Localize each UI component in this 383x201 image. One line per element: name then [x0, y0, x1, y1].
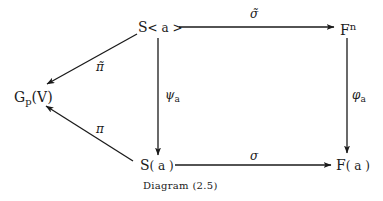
label-sigma-tilde: σ̃ [250, 7, 258, 21]
node-f-n-sup: n [350, 21, 356, 32]
label-pi-tilde: π̃ [96, 60, 104, 74]
arrow-pi-tilde [47, 34, 137, 84]
node-f-paren: F( a ) [336, 157, 370, 174]
node-f-paren-base: F [336, 157, 346, 173]
node-s-paren-base: S [140, 157, 150, 173]
label-psi-a-symbol: ψ [165, 88, 174, 102]
node-s-angle: S< a > [138, 19, 183, 36]
node-g-p-v-arg: (V) [32, 89, 53, 105]
node-f-n-base: F [340, 22, 350, 38]
node-s-paren: S( a ) [140, 157, 174, 174]
label-phi-a-sub: a [360, 94, 365, 104]
diagram-arrows [0, 0, 383, 201]
node-f-n: Fn [340, 19, 356, 38]
label-psi-a-sub: a [174, 94, 179, 104]
commutative-diagram: S< a > Fn Gp(V) S( a ) F( a ) σ̃ σ ψa φa… [0, 0, 383, 201]
node-g-p-v-base: G [14, 89, 25, 105]
arrow-pi [46, 106, 133, 161]
diagram-caption: Diagram (2.5) [143, 180, 218, 192]
label-phi-a: φa [352, 88, 366, 106]
node-s-angle-base: S [138, 19, 148, 35]
node-s-paren-arg: ( a ) [150, 159, 174, 173]
node-s-angle-arg: < a > [148, 21, 183, 35]
label-psi-a: ψa [165, 88, 180, 106]
node-g-p-v: Gp(V) [14, 89, 53, 110]
label-sigma: σ [250, 149, 258, 163]
node-f-paren-arg: ( a ) [346, 159, 370, 173]
label-pi: π [96, 122, 104, 136]
